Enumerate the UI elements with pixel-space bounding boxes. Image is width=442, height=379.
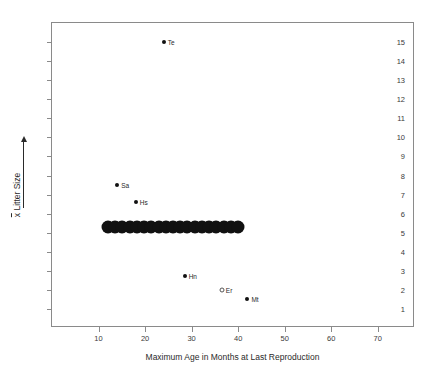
plot-area: 12345678910111213141510203040506070TeSaH… [51, 22, 414, 327]
y-axis-tick-label: 13 [397, 76, 405, 85]
y-axis-tick-label: 7 [401, 190, 405, 199]
y-axis-tick-label: 12 [397, 95, 405, 104]
y-axis-title: x Litter Size [12, 173, 22, 217]
data-point-cluster-marker [232, 220, 245, 233]
y-axis-tick-label: 9 [401, 152, 405, 161]
y-axis-tick-label: 15 [397, 38, 405, 47]
y-axis-tick [47, 214, 52, 215]
y-axis-tick [47, 137, 52, 138]
x-axis-tick [145, 326, 146, 332]
y-axis-tick-label: 11 [397, 114, 405, 123]
y-axis-tick [47, 42, 52, 43]
y-axis-tick-label: 6 [401, 209, 405, 218]
y-axis-tick [47, 176, 52, 177]
y-axis-tick [47, 61, 52, 62]
x-axis-tick [99, 326, 100, 332]
x-axis-tick [192, 326, 193, 332]
x-axis-tick [331, 326, 332, 332]
y-axis-tick [47, 271, 52, 272]
scatter-plot-figure: 12345678910111213141510203040506070TeSaH… [0, 0, 442, 379]
y-axis-tick [47, 290, 52, 291]
y-axis-tick-label: 1 [401, 304, 405, 313]
y-axis-tick [47, 252, 52, 253]
data-point-te [162, 40, 166, 44]
y-axis-tick [47, 99, 52, 100]
data-point-label-te: Te [168, 39, 175, 46]
y-axis-tick-label: 8 [401, 171, 405, 180]
data-point-hs [134, 200, 138, 204]
x-axis-tick-label: 70 [374, 334, 382, 343]
x-bar-symbol: x [12, 213, 22, 217]
x-axis-tick [378, 326, 379, 332]
data-point-label-er: Er [226, 286, 233, 293]
x-axis-title: Maximum Age in Months at Last Reproducti… [51, 352, 414, 362]
x-axis-tick-label: 30 [187, 334, 195, 343]
x-axis-tick-label: 40 [234, 334, 242, 343]
y-axis-title-text: Litter Size [12, 173, 22, 211]
y-axis-tick [47, 195, 52, 196]
x-axis-tick-label: 50 [281, 334, 289, 343]
x-axis-tick-label: 20 [141, 334, 149, 343]
x-axis-tick [238, 326, 239, 332]
data-point-hn [183, 274, 187, 278]
y-axis-tick-label: 3 [401, 266, 405, 275]
y-axis-tick-label: 5 [401, 228, 405, 237]
y-axis-title-container: x Litter Size [10, 130, 24, 260]
data-point-er [219, 287, 224, 292]
y-axis-tick [47, 118, 52, 119]
x-axis-tick-label: 10 [94, 334, 102, 343]
y-axis-tick-label: 14 [397, 57, 405, 66]
y-axis-tick [47, 80, 52, 81]
y-axis-tick-label: 4 [401, 247, 405, 256]
y-axis-tick-label: 10 [397, 133, 405, 142]
y-axis-tick-label: 2 [401, 285, 405, 294]
data-point-mt [245, 297, 249, 301]
x-axis-tick [285, 326, 286, 332]
data-point-label-hs: Hs [140, 199, 148, 206]
y-axis-tick [47, 156, 52, 157]
y-axis-tick [47, 309, 52, 310]
x-axis-tick-label: 60 [327, 334, 335, 343]
y-axis-tick [47, 233, 52, 234]
data-point-label-mt: Mt [251, 296, 258, 303]
data-point-label-sa: Sa [121, 182, 129, 189]
data-point-label-hn: Hn [189, 272, 197, 279]
data-point-sa [115, 183, 119, 187]
